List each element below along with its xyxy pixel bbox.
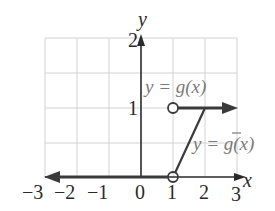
tick-x-neg2: −2 <box>54 181 75 203</box>
tick-y-2: 2 <box>128 29 138 51</box>
x-axis-label: x <box>242 169 252 191</box>
tick-x-neg3: −3 <box>22 181 43 203</box>
tick-x-2: 2 <box>199 181 209 203</box>
open-point-g <box>168 103 178 113</box>
g-label: y = g(x) <box>143 76 206 98</box>
y-axis <box>137 34 145 177</box>
tick-x-0: 0 <box>135 181 145 203</box>
tick-y-1: 1 <box>128 97 138 119</box>
y-axis-arrow-icon <box>137 34 145 46</box>
tick-x-3: 3 <box>231 183 241 205</box>
tick-x-neg1: −1 <box>87 181 108 203</box>
chart: −3 −2 −1 0 1 2 3 1 2 y x y = g(x) y = g(… <box>0 0 275 211</box>
gbar-label: y = g(x) <box>191 133 254 155</box>
right-arrow-icon <box>222 102 238 114</box>
tick-x-1: 1 <box>167 181 177 203</box>
y-axis-label: y <box>136 8 147 31</box>
